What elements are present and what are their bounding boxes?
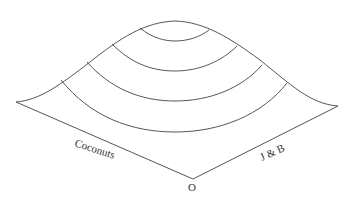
contour-2 [112, 44, 237, 71]
contour-1 [140, 28, 209, 41]
contour-4 [61, 80, 287, 132]
contour-3 [87, 62, 262, 101]
jb-axis [193, 106, 338, 179]
coconuts-axis [16, 102, 193, 179]
origin-label: O [188, 181, 196, 193]
coconuts-label: Coconuts [73, 136, 116, 160]
surface-outline [16, 21, 338, 106]
utility-surface-diagram: Coconuts J & B O [0, 0, 356, 201]
